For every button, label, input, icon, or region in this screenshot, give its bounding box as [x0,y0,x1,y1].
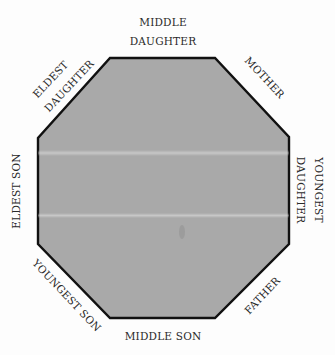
label-right-line2: DAUGHTER [295,157,307,224]
octagon-table [38,58,289,318]
label-eldest-son: ELDEST SON [10,153,22,228]
label-right-line1: YOUNGEST [313,156,325,222]
label-left-line1: ELDEST SON [10,153,22,228]
label-youngest-daughter: YOUNGEST DAUGHTER [295,156,325,224]
label-top-line2: DAUGHTER [130,35,197,47]
label-middle-daughter: MIDDLE DAUGHTER [130,16,197,47]
diagram-canvas: MIDDLE DAUGHTER MOTHER YOUNGEST DAUGHTER… [0,0,335,355]
label-bottom-line1: MIDDLE SON [125,330,202,342]
label-top-line1: MIDDLE [139,16,187,28]
label-middle-son: MIDDLE SON [125,330,202,342]
octagon-diagram: MIDDLE DAUGHTER MOTHER YOUNGEST DAUGHTER… [0,0,335,355]
